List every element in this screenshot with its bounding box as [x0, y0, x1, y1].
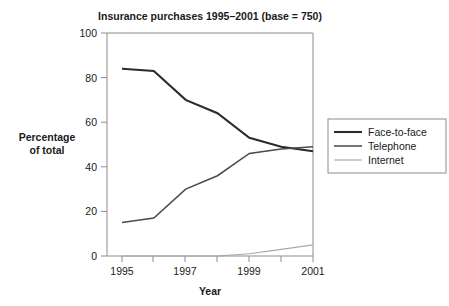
y-tick-label-0: 0: [91, 250, 97, 262]
chart-title: Insurance purchases 1995–2001 (base = 75…: [98, 10, 322, 22]
y-tick-label-40: 40: [85, 161, 97, 173]
y-tick-label-100: 100: [79, 27, 97, 39]
y-axis-title-line-2: of total: [30, 144, 65, 156]
y-tick-label-20: 20: [85, 205, 97, 217]
insurance-purchases-line-chart: Insurance purchases 1995–2001 (base = 75…: [0, 0, 449, 306]
x-tick-label-2001: 2001: [301, 265, 325, 277]
y-tick-label-80: 80: [85, 72, 97, 84]
x-tick-label-1997: 1997: [173, 265, 197, 277]
legend-label-telephone: Telephone: [368, 140, 417, 152]
x-axis-title: Year: [199, 285, 221, 297]
y-tick-label-60: 60: [85, 116, 97, 128]
legend-label-internet: Internet: [368, 154, 404, 166]
legend: Face-to-face Telephone Internet: [328, 119, 446, 173]
legend-label-face-to-face: Face-to-face: [368, 126, 427, 138]
y-axis-title-line-1: Percentage: [19, 131, 76, 143]
x-tick-label-1995: 1995: [110, 265, 134, 277]
x-tick-label-1999: 1999: [237, 265, 261, 277]
